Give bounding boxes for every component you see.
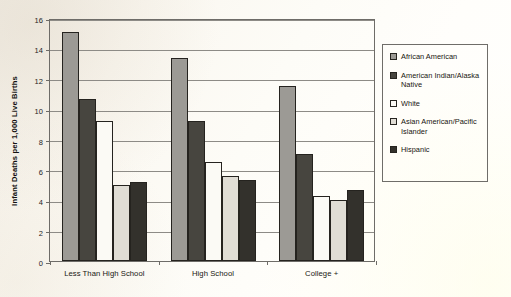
chart-page: Infant Deaths per 1,000 Live Births 0246…	[0, 0, 511, 297]
bar	[239, 180, 256, 261]
bar	[296, 154, 313, 261]
bar	[62, 32, 79, 261]
y-axis-tick-label: 6	[39, 167, 43, 176]
legend-item[interactable]: American Indian/Alaska Native	[390, 71, 481, 90]
x-axis-tick	[267, 261, 268, 265]
bars-layer	[50, 20, 374, 261]
y-axis-title: Infant Deaths per 1,000 Live Births	[10, 76, 19, 206]
legend-item-label: African American	[401, 52, 457, 62]
bar	[222, 176, 239, 261]
y-axis-tick-label: 12	[34, 76, 43, 85]
x-axis-category-label: College +	[305, 269, 338, 278]
plot-area: 0246810121416 Less Than High SchoolHigh …	[49, 19, 375, 262]
y-axis-tick-label: 14	[34, 46, 43, 55]
legend-swatch-icon	[390, 146, 397, 153]
y-axis-tick-label: 0	[39, 259, 43, 268]
legend-item-label: American Indian/Alaska Native	[401, 71, 481, 90]
y-axis-tick-label: 2	[39, 228, 43, 237]
bar	[130, 182, 147, 261]
legend-item[interactable]: Asian American/Pacific Islander	[390, 117, 481, 136]
bar	[96, 121, 113, 261]
x-axis-tick	[50, 261, 51, 265]
legend-item-label: White	[401, 99, 420, 109]
x-axis-tick	[376, 261, 377, 265]
x-axis-category-label: Less Than High School	[64, 269, 144, 278]
bar	[188, 121, 205, 261]
legend-item[interactable]: Hispanic	[390, 145, 481, 155]
bar	[347, 190, 364, 261]
legend-item[interactable]: African American	[390, 52, 481, 62]
legend-swatch-icon	[390, 100, 397, 107]
y-axis-tick-label: 4	[39, 198, 43, 207]
x-axis-category-label: High School	[192, 269, 234, 278]
bar	[79, 99, 96, 262]
legend-item[interactable]: White	[390, 99, 481, 109]
y-axis-tick-label: 8	[39, 137, 43, 146]
legend-item-label: Asian American/Pacific Islander	[401, 117, 481, 136]
legend-swatch-icon	[390, 53, 397, 60]
legend-swatch-icon	[390, 72, 397, 79]
bar	[279, 86, 296, 261]
chart-legend: African AmericanAmerican Indian/Alaska N…	[382, 44, 488, 182]
bar	[205, 162, 222, 261]
bar	[113, 185, 130, 261]
legend-swatch-icon	[390, 118, 397, 125]
bar	[171, 58, 188, 261]
bar	[313, 196, 330, 261]
y-axis-tick-label: 16	[34, 16, 43, 25]
x-axis-tick	[159, 261, 160, 265]
y-axis-tick-label: 10	[34, 107, 43, 116]
bar	[330, 200, 347, 261]
legend-item-label: Hispanic	[401, 145, 430, 155]
